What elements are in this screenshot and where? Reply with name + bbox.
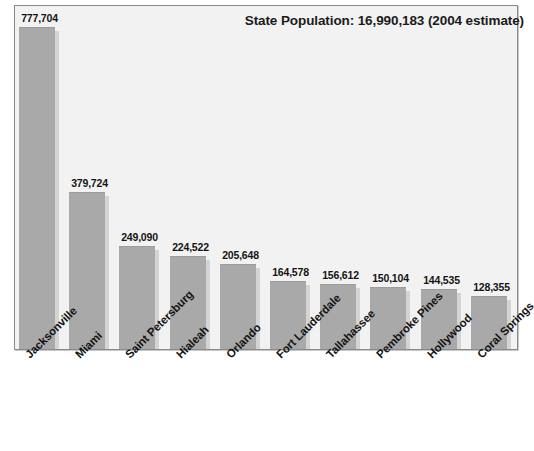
x-axis-labels: JacksonvilleMiamiSaint PetersburgHialeah… bbox=[15, 352, 517, 451]
bar-value-label: 224,522 bbox=[172, 241, 209, 253]
bar-group[interactable]: 777,704 bbox=[19, 6, 60, 349]
bar-value-label: 777,704 bbox=[21, 12, 58, 24]
bar-value-label: 379,724 bbox=[71, 177, 108, 189]
bar-value-label: 144,535 bbox=[423, 274, 460, 286]
bar-value-label: 205,648 bbox=[222, 249, 259, 261]
bar-miami[interactable] bbox=[69, 192, 105, 349]
bar-group[interactable]: 379,724 bbox=[69, 171, 110, 349]
bar-jacksonville[interactable] bbox=[19, 27, 55, 349]
bar-value-label: 150,104 bbox=[372, 272, 409, 284]
bar-value-label: 164,578 bbox=[272, 266, 309, 278]
bar-value-label: 249,090 bbox=[121, 231, 158, 243]
bar-value-label: 156,612 bbox=[322, 269, 359, 281]
bar-value-label: 128,355 bbox=[473, 281, 510, 293]
bar-chart-figure: State Population: 16,990,183 (2004 estim… bbox=[0, 0, 534, 451]
